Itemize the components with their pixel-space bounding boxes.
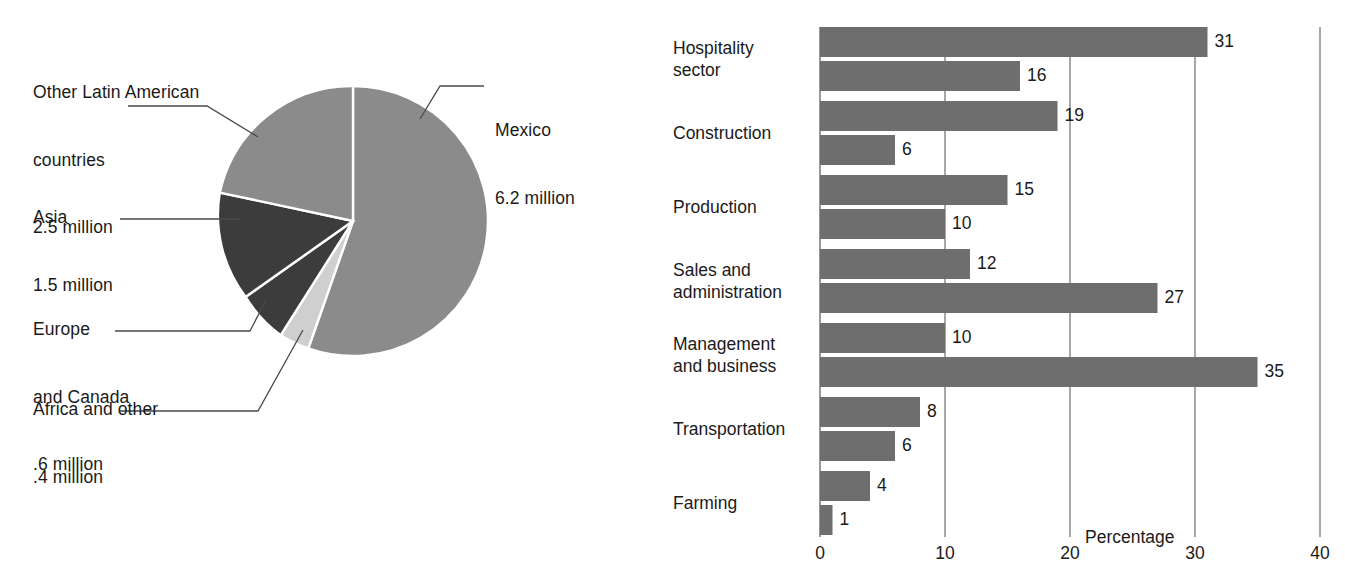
pie-chart-panel: Other Latin American countries 2.5 milli…: [0, 0, 660, 579]
bar-category-label-line: administration: [673, 281, 813, 304]
bar-hospitality-sector-s1: [820, 27, 1208, 57]
bar-category-label-line: Management: [673, 333, 813, 356]
bar-category-label-line: Hospitality: [673, 37, 813, 60]
bar-value-label: 19: [1065, 105, 1084, 126]
pie-label-mexico: Mexico 6.2 million: [495, 74, 575, 254]
bar-value-label: 10: [952, 213, 971, 234]
bar-category-label-line: Production: [673, 196, 813, 219]
bar-category-label-line: Transportation: [673, 418, 813, 441]
bar-sales-and-administration-s2: [820, 283, 1158, 313]
chart-figure: Other Latin American countries 2.5 milli…: [0, 0, 1345, 579]
bar-sales-and-administration-s1: [820, 249, 970, 279]
pie-label-line-1: Other Latin American: [33, 81, 199, 104]
pie-label-line-1: Asia: [33, 206, 113, 229]
bar-farming-s2: [820, 505, 833, 535]
bar-value-label: 12: [977, 253, 996, 274]
bar-category-label-line: and business: [673, 355, 813, 378]
bar-value-label: 6: [902, 435, 912, 456]
bar-value-label: 27: [1165, 287, 1184, 308]
bar-value-label: 6: [902, 139, 912, 160]
x-tick-0: 0: [795, 543, 845, 564]
bar-hospitality-sector-s2: [820, 61, 1020, 91]
bar-construction-s1: [820, 101, 1058, 131]
bar-value-label: 35: [1265, 361, 1284, 382]
bar-value-label: 1: [840, 509, 850, 530]
bar-value-label: 15: [1015, 179, 1034, 200]
x-axis-title: Percentage: [1085, 527, 1175, 548]
bar-chart-panel: HospitalitysectorConstructionProductionS…: [660, 0, 1345, 579]
pie-label-line-1: Mexico: [495, 119, 575, 142]
bar-production-s2: [820, 209, 945, 239]
bar-transportation-s1: [820, 397, 920, 427]
bar-production-s1: [820, 175, 1008, 205]
bar-management-and-business-s2: [820, 357, 1258, 387]
pie-label-africa-and-other: Africa and other .4 million: [33, 353, 158, 533]
pie-label-line-1: Africa and other: [33, 398, 158, 421]
x-tick-10: 10: [920, 543, 970, 564]
bar-category-label: Sales andadministration: [673, 259, 813, 304]
bar-category-label: Farming: [673, 492, 813, 515]
bar-category-label-line: Sales and: [673, 259, 813, 282]
bar-category-label-line: Farming: [673, 492, 813, 515]
bar-category-label: Hospitalitysector: [673, 37, 813, 82]
pie-label-line-1: Europe: [33, 318, 129, 341]
pie-label-line-2: .4 million: [33, 466, 158, 489]
bar-transportation-s2: [820, 431, 895, 461]
bar-farming-s1: [820, 471, 870, 501]
x-tick-30: 30: [1170, 543, 1220, 564]
bar-construction-s2: [820, 135, 895, 165]
bar-category-label: Transportation: [673, 418, 813, 441]
x-tick-40: 40: [1295, 543, 1345, 564]
pie-label-line-2: 6.2 million: [495, 187, 575, 210]
bar-value-label: 8: [927, 401, 937, 422]
bar-management-and-business-s1: [820, 323, 945, 353]
bar-category-label: Construction: [673, 122, 813, 145]
bar-value-label: 31: [1215, 31, 1234, 52]
leader-line-europe-and-canada: [115, 300, 266, 331]
bar-category-label: Production: [673, 196, 813, 219]
bar-value-label: 16: [1027, 65, 1046, 86]
bar-category-label-line: sector: [673, 59, 813, 82]
bar-value-label: 10: [952, 327, 971, 348]
bar-category-label: Managementand business: [673, 333, 813, 378]
bar-category-label-line: Construction: [673, 122, 813, 145]
bar-value-label: 4: [877, 475, 887, 496]
